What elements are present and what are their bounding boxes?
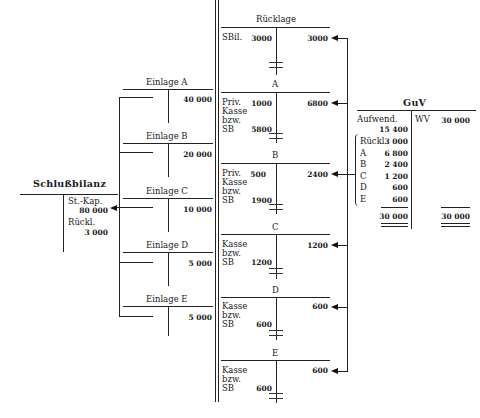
guv-item-value: 600 (376, 183, 408, 192)
guv-connector-vertical (347, 38, 348, 372)
guv-connector-stub-a (337, 103, 347, 104)
guv-item-label: A (360, 149, 366, 158)
konto-b-right-value: 2400 (304, 170, 328, 179)
guv-item-value: 3 000 (376, 137, 408, 146)
separator-line-2 (218, 0, 219, 402)
guv-item-value: 6 800 (376, 149, 408, 158)
einlage-a-value: 40 000 (170, 95, 212, 104)
guv-connector-stub-b (337, 174, 356, 175)
guv-title: GuV (403, 97, 426, 108)
einlage-e-divider (168, 306, 169, 336)
konto-d-title: D (272, 285, 279, 295)
konto-d-closing-rule (269, 330, 283, 336)
arrow-to-b-icon (331, 171, 338, 177)
schlussbilanz-title: Schlußbilanz (33, 178, 106, 189)
guv-connector-stub-ruecklage (337, 38, 347, 39)
ruecklage-title: Rücklage (256, 14, 296, 24)
schlussbilanz-top-rule (20, 194, 118, 195)
arrow-to-stkap-icon (110, 205, 117, 211)
guv-wv-value: 30 000 (438, 116, 470, 125)
connector-stub-c (117, 207, 153, 208)
konto-d-right-value: 600 (304, 302, 328, 311)
guv-item-label: E (360, 195, 366, 204)
konto-a-title: A (272, 79, 278, 89)
ruecklage-right-value: 3000 (304, 34, 328, 43)
connector-stub-e (119, 316, 153, 317)
separator-line-1 (215, 0, 216, 402)
einlage-a-title: Einlage A (146, 77, 188, 87)
konto-a-left-label: Priv. Kasse bzw. SB (222, 98, 247, 134)
einlage-a-divider (168, 89, 169, 123)
arrow-to-d-icon (331, 304, 338, 310)
rueckl-label: Rückl. (68, 218, 95, 227)
connector-stub-b (119, 152, 153, 153)
konto-b-title: B (272, 150, 278, 160)
guv-total-left: 30 000 (376, 212, 408, 221)
arrow-to-c-icon (331, 242, 338, 248)
guv-left-sum-rule (381, 207, 408, 208)
guv-item-value: 600 (376, 195, 408, 204)
guv-connector-stub-e (337, 371, 347, 372)
einlage-e-title: Einlage E (146, 294, 188, 304)
guv-connector-stub-c (337, 245, 347, 246)
konto-c-left-label: Kasse bzw. SB (222, 240, 247, 267)
guv-item-value: 2 400 (376, 160, 408, 169)
connector-stub-a (119, 97, 153, 98)
konto-e-left-label: Kasse bzw. SB (222, 366, 247, 393)
guv-right-double-rule (441, 223, 470, 227)
einlage-d-divider (168, 252, 169, 286)
konto-e-right-value: 600 (304, 366, 328, 375)
konto-c-sb-value: 1200 (248, 258, 272, 267)
konto-e-closing-rule (269, 393, 283, 399)
konto-a-left-value: 1000 (248, 99, 272, 108)
einlage-d-value: 5 000 (170, 259, 212, 268)
konto-b-closing-rule (269, 204, 283, 210)
ruecklage-left-value: 3000 (248, 34, 272, 43)
connector-stub-d (119, 262, 153, 263)
ruecklage-closing-rule (269, 62, 283, 68)
konto-d-sb-value: 600 (256, 320, 272, 329)
guv-item-label: D (360, 183, 367, 192)
guv-left-double-rule (381, 223, 408, 227)
guv-total-right: 30 000 (438, 212, 470, 221)
guv-item-label: B (360, 160, 366, 169)
rueckl-value: 3 000 (66, 228, 108, 237)
einlage-b-value: 20 000 (170, 150, 212, 159)
stkap-label: St.-Kap. (68, 197, 102, 206)
arrow-to-e-icon (331, 368, 338, 374)
konto-b-left-label: Priv. Kasse bzw. SB (222, 169, 247, 205)
ruecklage-left-label: SBil. (222, 33, 242, 42)
guv-top-rule (357, 110, 476, 111)
guv-wv-label: WV (415, 115, 430, 124)
einlage-c-title: Einlage C (146, 186, 188, 196)
stkap-value: 80 000 (66, 206, 108, 215)
guv-item-value: 1 200 (376, 172, 408, 181)
guv-aufwend-value: 15 400 (376, 125, 408, 134)
guv-connector-stub-d (337, 307, 347, 308)
schlussbilanz-divider (63, 194, 64, 252)
einlage-b-title: Einlage B (146, 131, 188, 141)
konto-a-closing-rule (269, 133, 283, 139)
arrow-to-ruecklage-icon (331, 35, 338, 41)
konto-b-left-value: 500 (248, 170, 266, 179)
konto-e-title: E (272, 348, 278, 358)
einlage-c-divider (168, 198, 169, 232)
konto-e-sb-value: 600 (256, 384, 272, 393)
guv-right-sum-rule (441, 207, 470, 208)
einlage-c-value: 10 000 (170, 205, 212, 214)
konto-c-title: C (272, 222, 279, 232)
guv-aufwend-label: Aufwend. (357, 115, 398, 124)
konto-c-closing-rule (269, 268, 283, 274)
konto-a-right-value: 6800 (304, 99, 328, 108)
einlage-b-divider (168, 143, 169, 177)
guv-item-label: C (360, 172, 367, 181)
einlage-e-value: 5 000 (170, 313, 212, 322)
guv-divider (411, 110, 412, 229)
konto-c-right-value: 1200 (304, 241, 328, 250)
konto-d-left-label: Kasse bzw. SB (222, 302, 247, 329)
arrow-to-a-icon (331, 100, 338, 106)
einlage-d-title: Einlage D (146, 240, 188, 250)
